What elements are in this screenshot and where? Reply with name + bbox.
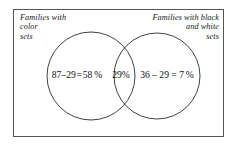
- set-caption-black-and-white-sets: Families with black and white sets: [129, 13, 219, 41]
- venn-diagram-figure: Families with color sets Families with b…: [0, 0, 239, 146]
- region-label-color-only: 87–29 = 58 %: [46, 69, 108, 80]
- region-label-black-and-white-only: 36 – 29 = 7 %: [134, 69, 200, 80]
- region-label-intersection: 29%: [109, 69, 133, 80]
- set-caption-color-sets: Families with color sets: [20, 13, 112, 41]
